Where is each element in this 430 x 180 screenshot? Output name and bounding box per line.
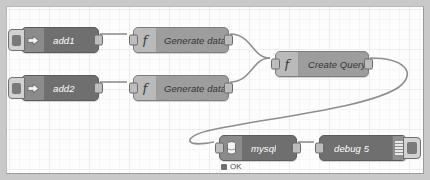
output-port[interactable] bbox=[224, 83, 233, 94]
output-port[interactable] bbox=[224, 35, 233, 46]
arrow-right-icon bbox=[22, 76, 45, 100]
node-debug-5[interactable]: debug 5 bbox=[319, 135, 407, 161]
inject-button-glyph bbox=[12, 35, 21, 46]
flow-canvas[interactable]: add1 add2 f bbox=[6, 6, 424, 174]
svg-text:f: f bbox=[142, 33, 150, 47]
node-label: Create Query bbox=[308, 59, 366, 70]
node-body: Generate data2 bbox=[157, 76, 228, 100]
node-label: Generate data1 bbox=[164, 35, 228, 46]
wire-gen1-to-query bbox=[230, 34, 270, 58]
status-text: OK bbox=[230, 162, 242, 171]
debug-toggle-glyph bbox=[407, 142, 417, 154]
node-red-editor-window: add1 add2 f bbox=[0, 0, 430, 180]
output-port[interactable] bbox=[94, 83, 103, 94]
output-port[interactable] bbox=[292, 143, 301, 154]
debug-toggle-button[interactable] bbox=[403, 137, 421, 159]
node-label: add1 bbox=[53, 35, 75, 46]
node-label: Generate data2 bbox=[164, 83, 228, 94]
node-body: add1 bbox=[45, 28, 98, 52]
node-body: add2 bbox=[45, 76, 98, 100]
status-dot bbox=[221, 164, 227, 170]
node-label: add2 bbox=[53, 83, 75, 94]
inject-button-glyph bbox=[12, 83, 21, 94]
svg-text:f: f bbox=[284, 57, 292, 71]
input-port[interactable] bbox=[129, 83, 138, 94]
node-add1[interactable]: add1 bbox=[21, 27, 99, 53]
output-port[interactable] bbox=[94, 35, 103, 46]
input-port[interactable] bbox=[271, 59, 280, 70]
node-body: mysql bbox=[243, 136, 296, 160]
node-add2[interactable]: add2 bbox=[21, 75, 99, 101]
input-port[interactable] bbox=[215, 143, 224, 154]
node-generate-data1[interactable]: f Generate data1 bbox=[133, 27, 229, 53]
node-body: Create Query bbox=[299, 52, 368, 76]
inject-button-add2[interactable] bbox=[8, 77, 25, 99]
node-body: debug 5 bbox=[320, 136, 392, 160]
input-port[interactable] bbox=[129, 35, 138, 46]
node-create-query[interactable]: f Create Query bbox=[275, 51, 369, 77]
node-label: mysql bbox=[251, 143, 276, 154]
arrow-right-icon bbox=[22, 28, 45, 52]
node-label: debug 5 bbox=[334, 143, 369, 154]
svg-text:f: f bbox=[142, 81, 150, 95]
node-mysql[interactable]: mysql bbox=[219, 135, 297, 161]
node-body: Generate data1 bbox=[157, 28, 228, 52]
wire-gen2-to-query bbox=[230, 58, 270, 82]
inject-button-add1[interactable] bbox=[8, 29, 25, 51]
node-generate-data2[interactable]: f Generate data2 bbox=[133, 75, 229, 101]
input-port[interactable] bbox=[315, 143, 324, 154]
output-port[interactable] bbox=[364, 59, 373, 70]
status-badge-mysql: OK bbox=[221, 162, 242, 171]
